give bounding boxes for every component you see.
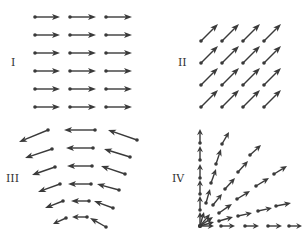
vector-arrow bbox=[45, 199, 65, 208]
vector-arrow bbox=[220, 46, 239, 65]
tail-dot-icon bbox=[68, 105, 72, 109]
vector-arrow bbox=[241, 46, 260, 65]
vector-arrow bbox=[25, 147, 54, 158]
vector-field-figure: I II III IV bbox=[0, 0, 302, 232]
tail-dot-icon bbox=[87, 199, 91, 203]
tail-dot-icon bbox=[135, 138, 139, 142]
vector-arrow bbox=[68, 68, 96, 74]
tail-dot-icon bbox=[104, 33, 108, 37]
vector-arrow bbox=[262, 68, 281, 87]
tail-dot-icon bbox=[220, 39, 224, 43]
vector-arrow bbox=[38, 182, 62, 192]
vector-arrow bbox=[219, 223, 235, 229]
vector-arrow bbox=[66, 145, 95, 151]
vector-arrow bbox=[108, 130, 139, 142]
tail-dot-icon bbox=[209, 181, 213, 185]
tail-dot-icon bbox=[198, 141, 202, 145]
tail-dot-icon bbox=[33, 15, 37, 19]
tail-dot-icon bbox=[236, 214, 240, 218]
vector-arrow bbox=[33, 68, 60, 74]
vector-arrow bbox=[197, 180, 203, 196]
tail-dot-icon bbox=[68, 69, 72, 73]
tail-dot-icon bbox=[223, 187, 227, 191]
vector-arrow bbox=[262, 46, 281, 65]
tail-dot-icon bbox=[266, 224, 270, 228]
tail-dot-icon bbox=[50, 147, 54, 151]
panel-label-III: III bbox=[6, 172, 19, 185]
vector-arrow bbox=[209, 169, 216, 185]
vector-arrow bbox=[211, 194, 222, 207]
vector-arrow bbox=[33, 50, 60, 56]
tail-dot-icon bbox=[33, 33, 37, 37]
vector-arrow bbox=[272, 166, 287, 176]
tail-dot-icon bbox=[262, 83, 266, 87]
tail-dot-icon bbox=[241, 61, 245, 65]
vector-arrow bbox=[104, 50, 132, 56]
tail-dot-icon bbox=[243, 224, 247, 228]
vector-arrow bbox=[104, 86, 132, 92]
vector-arrow bbox=[241, 24, 260, 43]
tail-dot-icon bbox=[199, 105, 203, 109]
panel-label-IV: IV bbox=[172, 172, 185, 185]
tail-dot-icon bbox=[46, 128, 50, 132]
vector-arrow bbox=[104, 32, 132, 38]
tail-dot-icon bbox=[241, 105, 245, 109]
vector-arrow bbox=[287, 223, 302, 229]
vector-arrow bbox=[199, 90, 218, 109]
tail-dot-icon bbox=[248, 153, 252, 157]
vector-arrow bbox=[262, 90, 281, 109]
tail-dot-icon bbox=[61, 199, 65, 203]
vector-arrow bbox=[104, 104, 132, 110]
tail-dot-icon bbox=[68, 15, 72, 19]
vector-arrow bbox=[220, 68, 239, 87]
vector-arrow bbox=[68, 14, 96, 20]
vector-arrow bbox=[33, 104, 60, 110]
tail-dot-icon bbox=[91, 146, 95, 150]
vector-arrow bbox=[223, 178, 235, 191]
vector-arrow bbox=[241, 68, 260, 87]
vector-arrow bbox=[236, 211, 252, 217]
tail-dot-icon bbox=[68, 33, 72, 37]
vector-arrow bbox=[90, 218, 108, 229]
vector-arrow bbox=[254, 178, 269, 188]
tail-dot-icon bbox=[104, 225, 108, 229]
tail-dot-icon bbox=[272, 172, 276, 176]
vector-arrow bbox=[266, 223, 282, 229]
vector-arrow bbox=[197, 129, 203, 145]
vector-arrow bbox=[236, 161, 248, 174]
vector-arrow bbox=[243, 223, 259, 229]
vector-arrow bbox=[220, 132, 229, 146]
vector-arrow bbox=[97, 183, 121, 192]
tail-dot-icon bbox=[58, 182, 62, 186]
tail-dot-icon bbox=[123, 172, 127, 176]
tail-dot-icon bbox=[204, 201, 208, 205]
vector-arrow bbox=[204, 189, 211, 205]
tail-dot-icon bbox=[104, 87, 108, 91]
tail-dot-icon bbox=[199, 39, 203, 43]
vector-arrow bbox=[197, 146, 203, 162]
vector-arrow bbox=[71, 198, 91, 204]
tail-dot-icon bbox=[33, 69, 37, 73]
tail-dot-icon bbox=[85, 215, 89, 219]
tail-dot-icon bbox=[198, 224, 202, 228]
vector-arrow bbox=[68, 32, 96, 38]
vector-arrow bbox=[32, 165, 57, 175]
tail-dot-icon bbox=[68, 87, 72, 91]
tail-dot-icon bbox=[104, 15, 108, 19]
vector-arrow bbox=[274, 201, 291, 207]
vector-arrow bbox=[199, 24, 218, 43]
tail-dot-icon bbox=[262, 39, 266, 43]
tail-dot-icon bbox=[220, 105, 224, 109]
panel-I bbox=[33, 14, 132, 110]
tail-dot-icon bbox=[217, 219, 221, 223]
tail-dot-icon bbox=[104, 51, 108, 55]
vector-arrow bbox=[235, 191, 250, 201]
panel-IV bbox=[197, 129, 302, 229]
vector-arrow bbox=[64, 127, 97, 133]
tail-dot-icon bbox=[93, 128, 97, 132]
vector-arrow bbox=[104, 148, 132, 158]
vector-arrow bbox=[220, 90, 239, 109]
vector-arrow bbox=[68, 86, 96, 92]
tail-dot-icon bbox=[214, 162, 218, 166]
vector-arrow bbox=[68, 50, 96, 56]
